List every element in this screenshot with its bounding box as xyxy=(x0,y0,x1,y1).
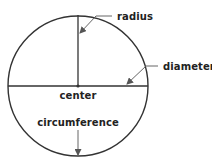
radius-label: radius xyxy=(117,11,153,22)
center-label: center xyxy=(60,90,97,101)
circle-parts-diagram: radius diameter center circumference xyxy=(0,0,212,164)
diameter-label: diameter xyxy=(163,61,212,72)
diameter-leader-arrow xyxy=(127,66,158,84)
circumference-label: circumference xyxy=(37,117,119,128)
center-point xyxy=(76,84,79,87)
